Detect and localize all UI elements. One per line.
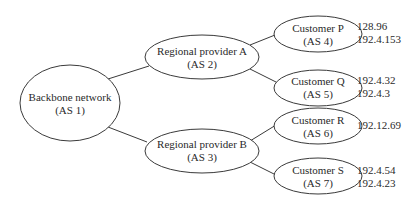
node-customer-r: Customer R (AS 6) (274, 108, 362, 144)
edge-regional-b-customer-r (250, 125, 276, 141)
node-backbone-as: (AS 1) (55, 104, 85, 117)
node-backbone: Backbone network (AS 1) (20, 65, 120, 141)
node-customer-q-name: Customer Q (291, 75, 345, 87)
node-customer-p: Customer P (AS 4) (274, 16, 362, 52)
network-diagram: Backbone network (AS 1) Regional provide… (0, 0, 414, 207)
node-regional-a: Regional provider A (AS 2) (145, 35, 259, 79)
customer-s-prefixes: 192.4.54 192.4.23 (357, 164, 396, 190)
node-customer-p-as: (AS 4) (303, 35, 333, 48)
node-customer-q-as: (AS 5) (303, 88, 333, 101)
edge-backbone-regional-b (108, 127, 147, 142)
node-regional-b-name: Regional provider B (157, 138, 247, 150)
prefix: 192.4.23 (357, 177, 396, 190)
prefix: 192.4.3 (357, 87, 396, 100)
node-regional-b: Regional provider B (AS 3) (145, 129, 259, 173)
node-customer-r-name: Customer R (292, 114, 346, 126)
customer-r-prefixes: 192.12.69 (357, 119, 401, 132)
prefix: 192.4.54 (357, 164, 396, 177)
node-customer-p-name: Customer P (292, 22, 344, 34)
node-customer-s: Customer S (AS 7) (274, 158, 362, 194)
edge-regional-a-customer-q (248, 68, 276, 82)
node-regional-a-as: (AS 2) (187, 58, 217, 71)
node-customer-r-as: (AS 6) (303, 127, 333, 140)
edge-regional-b-customer-s (248, 161, 276, 175)
node-customer-s-as: (AS 7) (303, 177, 333, 190)
prefix: 192.12.69 (357, 119, 401, 132)
edge-backbone-regional-a (108, 66, 149, 79)
prefix: 192.4.153 (357, 33, 401, 46)
node-regional-b-as: (AS 3) (187, 151, 217, 164)
prefix: 128.96 (357, 20, 401, 33)
node-customer-s-name: Customer S (292, 164, 344, 176)
customer-q-prefixes: 192.4.32 192.4.3 (357, 74, 396, 100)
node-regional-a-name: Regional provider A (157, 45, 247, 57)
node-customer-q: Customer Q (AS 5) (274, 70, 362, 106)
prefix: 192.4.32 (357, 74, 396, 87)
customer-p-prefixes: 128.96 192.4.153 (357, 20, 401, 46)
node-backbone-name: Backbone network (29, 91, 112, 103)
edge-regional-a-customer-p (250, 35, 275, 45)
